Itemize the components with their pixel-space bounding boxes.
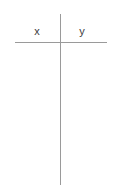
- column-header-x[interactable]: x: [17, 22, 57, 40]
- table-header-row: x y: [0, 22, 115, 40]
- column-header-y[interactable]: y: [62, 22, 102, 40]
- table-body-empty: [15, 43, 107, 185]
- two-column-table: x y: [0, 0, 115, 190]
